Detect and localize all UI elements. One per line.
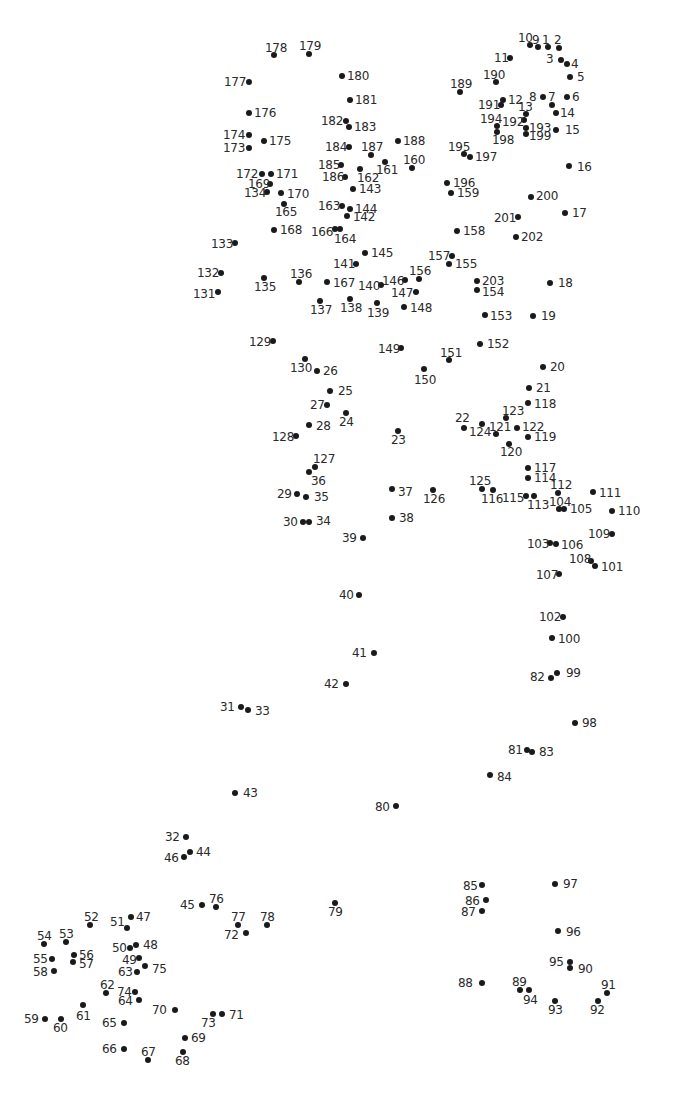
dot-6[interactable] — [564, 94, 570, 100]
dot-144[interactable] — [347, 206, 353, 212]
dot-19[interactable] — [530, 313, 536, 319]
dot-181[interactable] — [347, 97, 353, 103]
dot-17[interactable] — [562, 210, 568, 216]
dot-66[interactable] — [121, 1046, 127, 1052]
dot-55[interactable] — [49, 956, 55, 962]
dot-37[interactable] — [389, 486, 395, 492]
dot-176[interactable] — [246, 110, 252, 116]
dot-143[interactable] — [350, 186, 356, 192]
dot-118[interactable] — [525, 400, 531, 406]
dot-20[interactable] — [540, 364, 546, 370]
dot-38[interactable] — [389, 515, 395, 521]
dot-71[interactable] — [219, 1011, 225, 1017]
dot-3[interactable] — [558, 57, 564, 63]
dot-32[interactable] — [183, 834, 189, 840]
dot-80[interactable] — [393, 803, 399, 809]
dot-110[interactable] — [609, 508, 615, 514]
dot-171[interactable] — [268, 171, 274, 177]
dot-56[interactable] — [71, 952, 77, 958]
dot-16[interactable] — [566, 163, 572, 169]
dot-96[interactable] — [555, 928, 561, 934]
dot-167[interactable] — [324, 279, 330, 285]
dot-51[interactable] — [124, 925, 130, 931]
dot-95[interactable] — [567, 959, 573, 965]
dot-114[interactable] — [525, 475, 531, 481]
dot-72[interactable] — [243, 930, 249, 936]
dot-64[interactable] — [136, 997, 142, 1003]
dot-158[interactable] — [454, 228, 460, 234]
dot-29[interactable] — [294, 491, 300, 497]
dot-159[interactable] — [448, 190, 454, 196]
dot-48[interactable] — [133, 942, 139, 948]
dot-26[interactable] — [314, 368, 320, 374]
dot-131[interactable] — [215, 289, 221, 295]
dot-57[interactable] — [70, 959, 76, 965]
dot-45[interactable] — [199, 902, 205, 908]
dot-202[interactable] — [513, 234, 519, 240]
dot-172[interactable] — [259, 171, 265, 177]
dot-101[interactable] — [592, 563, 598, 569]
dot-90[interactable] — [567, 965, 573, 971]
dot-142[interactable] — [344, 213, 350, 219]
dot-18[interactable] — [547, 280, 553, 286]
dot-173[interactable] — [246, 145, 252, 151]
dot-111[interactable] — [590, 489, 596, 495]
dot-35[interactable] — [303, 494, 309, 500]
dot-46[interactable] — [181, 854, 187, 860]
dot-43[interactable] — [232, 790, 238, 796]
dot-39[interactable] — [360, 535, 366, 541]
dot-22[interactable] — [461, 425, 467, 431]
dot-21[interactable] — [526, 385, 532, 391]
dot-15[interactable] — [553, 127, 559, 133]
dot-152[interactable] — [477, 341, 483, 347]
dot-85[interactable] — [479, 882, 485, 888]
dot-180[interactable] — [339, 73, 345, 79]
dot-119[interactable] — [525, 434, 531, 440]
dot-58[interactable] — [51, 968, 57, 974]
dot-99[interactable] — [554, 670, 560, 676]
dot-47[interactable] — [128, 914, 134, 920]
dot-88[interactable] — [479, 980, 485, 986]
dot-61[interactable] — [80, 1002, 86, 1008]
dot-49[interactable] — [136, 955, 142, 961]
dot-27[interactable] — [324, 402, 330, 408]
dot-25[interactable] — [327, 388, 333, 394]
dot-65[interactable] — [121, 1020, 127, 1026]
dot-98[interactable] — [572, 720, 578, 726]
dot-50[interactable] — [127, 945, 133, 951]
dot-84[interactable] — [487, 772, 493, 778]
dot-177[interactable] — [246, 79, 252, 85]
dot-170[interactable] — [278, 190, 284, 196]
dot-63[interactable] — [134, 969, 140, 975]
dot-188[interactable] — [395, 138, 401, 144]
dot-74[interactable] — [132, 989, 138, 995]
dot-148[interactable] — [401, 304, 407, 310]
dot-122[interactable] — [514, 425, 520, 431]
dot-150[interactable] — [421, 366, 427, 372]
dot-153[interactable] — [482, 312, 488, 318]
dot-86[interactable] — [483, 897, 489, 903]
dot-174[interactable] — [246, 132, 252, 138]
dot-197[interactable] — [467, 154, 473, 160]
dot-70[interactable] — [172, 1007, 178, 1013]
dot-75[interactable] — [142, 963, 148, 969]
dot-34[interactable] — [306, 519, 312, 525]
dot-154[interactable] — [474, 287, 480, 293]
dot-100[interactable] — [549, 635, 555, 641]
dot-42[interactable] — [343, 681, 349, 687]
dot-8[interactable] — [540, 94, 546, 100]
dot-33[interactable] — [245, 707, 251, 713]
dot-145[interactable] — [362, 250, 368, 256]
dot-83[interactable] — [529, 749, 535, 755]
dot-200[interactable] — [528, 194, 534, 200]
dot-69[interactable] — [182, 1035, 188, 1041]
dot-117[interactable] — [525, 465, 531, 471]
dot-59[interactable] — [42, 1016, 48, 1022]
dot-106[interactable] — [553, 541, 559, 547]
dot-183[interactable] — [346, 124, 352, 130]
dot-196[interactable] — [444, 180, 450, 186]
dot-14[interactable] — [553, 110, 559, 116]
dot-147[interactable] — [413, 289, 419, 295]
dot-82[interactable] — [548, 675, 554, 681]
dot-44[interactable] — [187, 849, 193, 855]
